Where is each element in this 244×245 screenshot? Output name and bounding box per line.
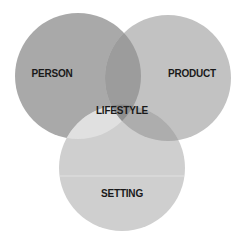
setting-label: SETTING bbox=[101, 188, 143, 199]
product-label: PRODUCT bbox=[168, 68, 216, 79]
lifestyle-label: LIFESTYLE bbox=[96, 105, 149, 116]
venn-diagram: PERSON PRODUCT SETTING LIFESTYLE bbox=[0, 0, 244, 245]
person-label: PERSON bbox=[31, 68, 72, 79]
